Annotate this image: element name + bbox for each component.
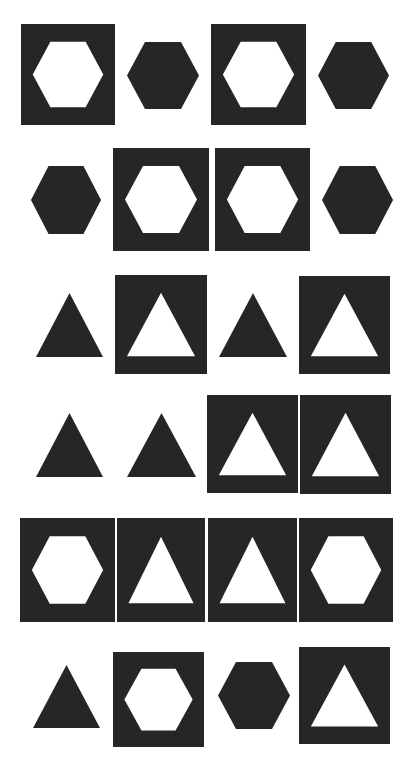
solid-triangle-tile [127, 413, 196, 477]
solid-hexagon-tile [127, 42, 199, 109]
hexagon-icon [113, 148, 209, 251]
triangle-icon [36, 413, 103, 477]
solid-triangle-tile [219, 293, 287, 357]
triangle-icon [127, 413, 196, 477]
hexagon-icon [31, 166, 101, 234]
solid-hexagon-tile [322, 166, 393, 234]
framed-hexagon-tile [20, 518, 115, 622]
triangle-icon [33, 665, 100, 728]
hexagon-icon [299, 518, 393, 622]
hexagon-icon [113, 652, 204, 747]
hexagon-icon [215, 148, 310, 251]
triangle-icon [300, 395, 391, 494]
framed-triangle-tile [115, 275, 207, 374]
triangle-icon [115, 275, 207, 374]
framed-triangle-tile [299, 647, 390, 744]
triangle-icon [299, 647, 390, 744]
hexagon-icon [318, 42, 389, 109]
hexagon-icon [20, 518, 115, 622]
hexagon-icon [218, 662, 290, 729]
hexagon-icon [127, 42, 199, 109]
triangle-icon [207, 395, 298, 493]
framed-hexagon-tile [113, 652, 204, 747]
shape-grid [0, 0, 414, 763]
framed-triangle-tile [299, 276, 390, 374]
triangle-icon [219, 293, 287, 357]
framed-triangle-tile [300, 395, 391, 494]
framed-hexagon-tile [21, 24, 115, 125]
framed-hexagon-tile [211, 24, 306, 125]
triangle-icon [299, 276, 390, 374]
framed-triangle-tile [117, 518, 205, 622]
hexagon-icon [322, 166, 393, 234]
hexagon-icon [211, 24, 306, 125]
framed-triangle-tile [207, 395, 298, 493]
triangle-icon [208, 518, 297, 622]
triangle-icon [36, 293, 103, 357]
solid-hexagon-tile [318, 42, 389, 109]
framed-hexagon-tile [299, 518, 393, 622]
solid-hexagon-tile [31, 166, 101, 234]
hexagon-icon [21, 24, 115, 125]
triangle-icon [117, 518, 205, 622]
framed-triangle-tile [208, 518, 297, 622]
framed-hexagon-tile [113, 148, 209, 251]
solid-triangle-tile [33, 665, 100, 728]
solid-hexagon-tile [218, 662, 290, 729]
solid-triangle-tile [36, 413, 103, 477]
solid-triangle-tile [36, 293, 103, 357]
framed-hexagon-tile [215, 148, 310, 251]
